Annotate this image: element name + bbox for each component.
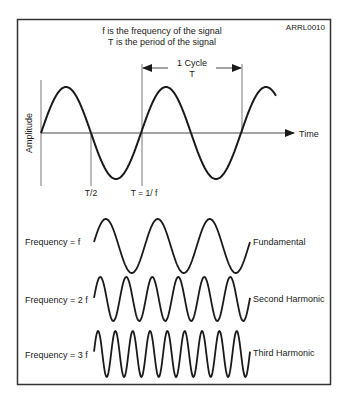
cycle-period-label: T — [189, 69, 195, 79]
x-axis-label: Time — [299, 129, 319, 139]
second-freq-label: Frequency = 2 f — [25, 295, 88, 305]
third-freq-label: Frequency = 3 f — [25, 350, 88, 360]
figure-id: ARRL0010 — [286, 23, 326, 32]
title-line-2: T is the period of the signal — [108, 37, 216, 47]
third-harmonic-label: Third Harmonic — [253, 348, 315, 358]
period-label: T = 1/ f — [131, 188, 158, 198]
diagram-canvas: ARRL0010 f is the frequency of the signa… — [0, 0, 349, 406]
half-period-label: T/2 — [85, 188, 98, 198]
fundamental-label: Fundamental — [253, 237, 306, 247]
fundamental-freq-label: Frequency = f — [25, 237, 81, 247]
fundamental-wave — [94, 219, 250, 273]
figure-border — [18, 20, 331, 385]
title-line-1: f is the frequency of the signal — [102, 26, 222, 36]
second-harmonic-label: Second Harmonic — [253, 294, 325, 304]
y-axis-label: Amplitude — [24, 113, 34, 153]
cycle-label: 1 Cycle — [177, 58, 207, 68]
third-harmonic-wave — [94, 331, 250, 377]
second-harmonic-wave — [94, 277, 250, 321]
